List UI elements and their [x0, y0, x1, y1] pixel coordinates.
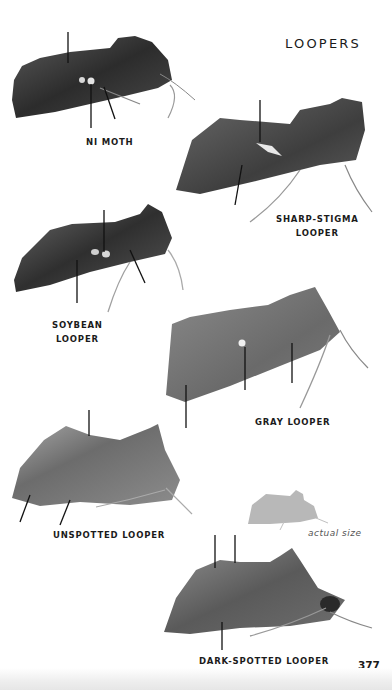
label-ni-moth: NI MOTH — [86, 135, 133, 149]
soybean-looper-figure — [14, 204, 183, 312]
ni-moth-figure — [12, 32, 195, 128]
sharp-stigma-looper-figure — [176, 98, 372, 222]
actual-size-caption: actual size — [308, 528, 362, 538]
book-page: LOOPERS — [0, 0, 392, 690]
label-soybean-looper: SOYBEAN LOOPER — [52, 318, 103, 346]
unspotted-looper-figure — [12, 410, 192, 525]
label-unspotted-looper: UNSPOTTED LOOPER — [53, 528, 165, 542]
moth-silhouette-icon — [248, 490, 328, 530]
label-gray-looper: GRAY LOOPER — [255, 415, 330, 429]
page-edge-shadow — [0, 668, 392, 690]
dark-spotted-looper-figure — [164, 535, 372, 650]
label-dark-spotted-looper: DARK-SPOTTED LOOPER — [199, 654, 329, 668]
gray-looper-figure — [166, 287, 368, 428]
label-sharp-stigma-looper: SHARP-STIGMA LOOPER — [276, 212, 359, 240]
